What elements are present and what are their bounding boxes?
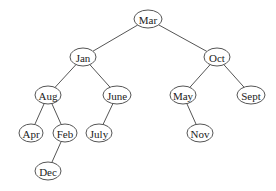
node-label: July	[90, 128, 109, 140]
node-label: Dec	[39, 166, 57, 178]
node-feb: Feb	[53, 124, 77, 142]
node-dec: Dec	[35, 162, 61, 180]
edge-mar-jan	[93, 25, 138, 51]
edge-oct-may	[190, 65, 210, 88]
node-label: May	[173, 90, 194, 102]
edge-oct-sept	[224, 65, 244, 88]
node-june: June	[103, 86, 131, 104]
node-oct: Oct	[204, 48, 230, 66]
edge-jan-aug	[55, 65, 76, 88]
edge-aug-apr	[35, 104, 44, 125]
node-label: Aug	[39, 90, 58, 102]
node-nov: Nov	[187, 124, 213, 142]
edge-may-nov	[187, 104, 196, 125]
edge-june-july	[103, 104, 113, 125]
node-label: Oct	[209, 52, 225, 64]
node-july: July	[86, 124, 112, 142]
node-sept: Sept	[237, 86, 265, 104]
tree-diagram: MarJanOctAugJuneMaySeptAprFebJulyNovDec	[0, 0, 276, 191]
node-may: May	[170, 86, 196, 104]
node-label: Apr	[22, 128, 39, 140]
edge-jan-june	[90, 65, 110, 88]
edge-feb-dec	[52, 142, 61, 163]
edge-mar-oct	[159, 25, 207, 52]
node-label: Jan	[76, 52, 91, 64]
node-label: June	[107, 90, 127, 102]
node-label: Mar	[139, 14, 158, 26]
node-apr: Apr	[19, 124, 43, 142]
edge-aug-feb	[52, 104, 61, 125]
node-jan: Jan	[70, 48, 96, 66]
node-label: Nov	[191, 128, 210, 140]
node-label: Sept	[241, 90, 261, 102]
node-aug: Aug	[35, 86, 61, 104]
node-label: Feb	[57, 128, 74, 140]
node-mar: Mar	[134, 10, 162, 28]
